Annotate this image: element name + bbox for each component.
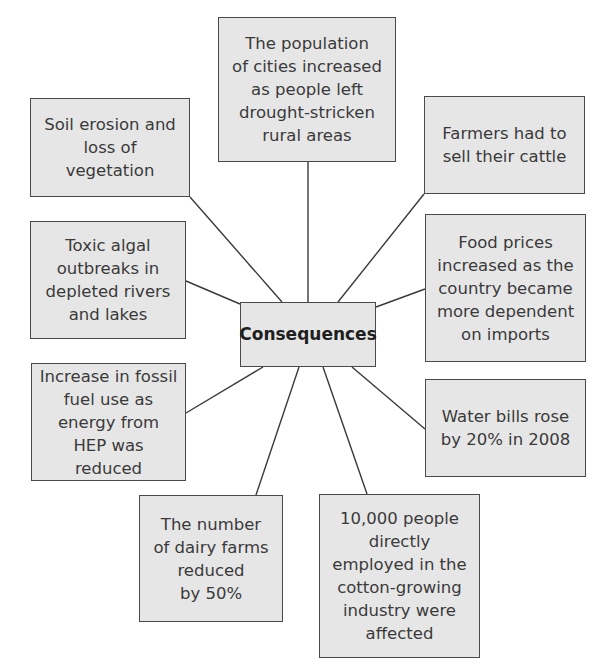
node-soil-erosion: Soil erosion and loss of vegetation — [30, 98, 190, 197]
node-cotton-industry: 10,000 people directly employed in the c… — [319, 494, 480, 658]
edge-center-food — [376, 289, 425, 307]
node-sell-cattle: Farmers had to sell their cattle — [424, 96, 585, 194]
node-toxic-algal: Toxic algal outbreaks in depleted rivers… — [30, 221, 186, 339]
edge-center-water — [352, 367, 425, 429]
node-food-prices: Food prices increased as the country bec… — [425, 214, 586, 362]
node-dairy-farms: The number of dairy farms reduced by 50% — [139, 495, 283, 622]
edge-center-soil — [190, 197, 282, 302]
edge-center-fossil — [186, 367, 263, 413]
edge-center-algal — [186, 281, 240, 304]
node-cities-population: The population of cities increased as pe… — [218, 17, 396, 162]
edge-center-cattle — [338, 194, 424, 302]
center-consequences: Consequences — [240, 302, 376, 367]
edge-center-dairy — [256, 367, 299, 495]
edge-center-cotton — [323, 367, 367, 494]
node-fossil-fuel: Increase in fossil fuel use as energy fr… — [31, 363, 186, 481]
node-water-bills: Water bills rose by 20% in 2008 — [425, 379, 586, 477]
